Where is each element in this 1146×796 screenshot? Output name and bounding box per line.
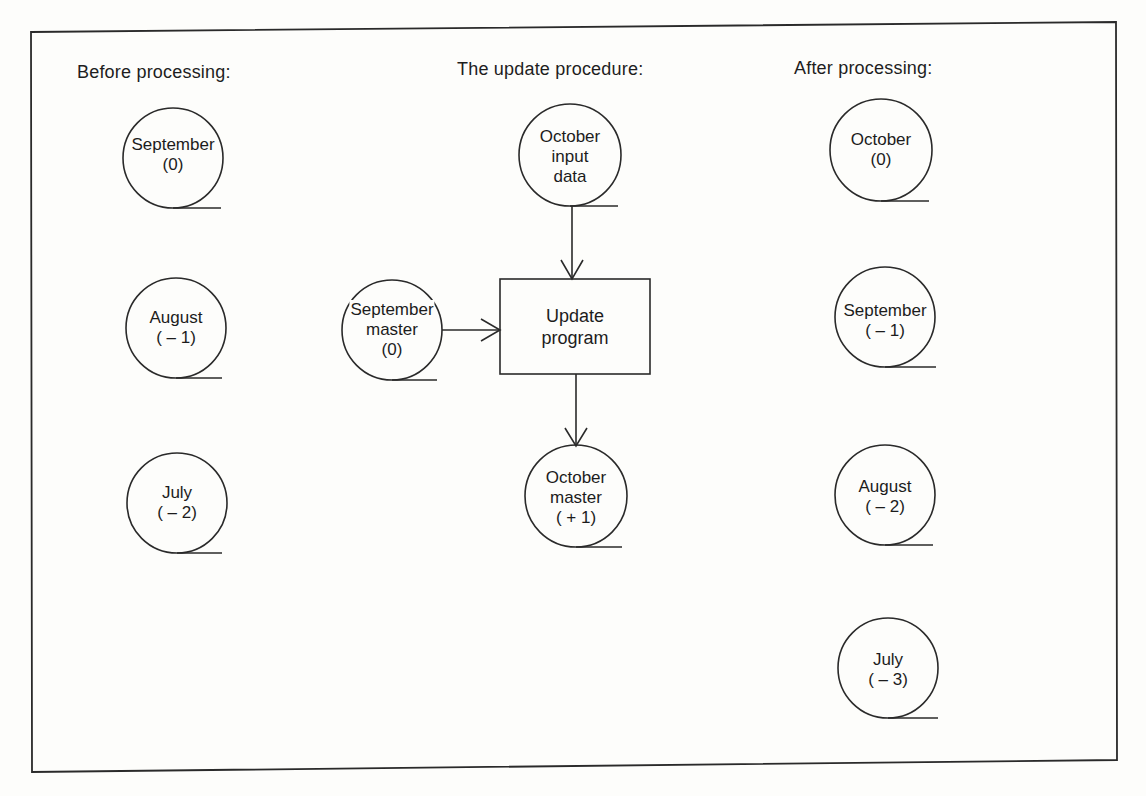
heading-update-procedure: The update procedure: — [457, 59, 643, 80]
diagram-canvas — [0, 0, 1146, 796]
reel-label-line: September — [842, 301, 927, 321]
reel-label-after-3: July ( – 3) — [868, 650, 908, 690]
reel-label-october-master: October master ( + 1) — [546, 468, 606, 528]
reel-label-after-2: August ( – 2) — [859, 477, 912, 517]
heading-before-processing: Before processing: — [77, 62, 231, 83]
reel-label-line: (0) — [130, 155, 215, 175]
arrow-input-to-program — [561, 206, 583, 279]
heading-after-processing: After processing: — [794, 58, 932, 79]
reel-label-september-master: September master (0) — [349, 300, 434, 360]
arrow-master-to-program — [442, 319, 500, 341]
arrow-program-to-output — [565, 374, 587, 446]
reel-label-after-0: October (0) — [851, 130, 911, 170]
reel-label-line: master — [349, 320, 434, 340]
reel-label-line: August — [150, 308, 203, 328]
reel-label-line: ( – 2) — [157, 503, 197, 523]
reel-label-before-1: August ( – 1) — [150, 308, 203, 348]
reel-label-line: ( – 2) — [859, 497, 912, 517]
reel-label-line: ( – 1) — [842, 321, 927, 341]
reel-label-after-1: September ( – 1) — [842, 301, 927, 341]
reel-label-line: master — [546, 488, 606, 508]
reel-label-line: (0) — [851, 150, 911, 170]
reel-label-line: October — [851, 130, 911, 150]
reel-label-before-2: July ( – 2) — [157, 483, 197, 523]
reel-label-line: input — [540, 147, 600, 167]
reel-label-line: October — [546, 468, 606, 488]
box-label-line: Update — [546, 305, 604, 327]
reel-label-line: ( – 1) — [150, 328, 203, 348]
reel-label-october-input: October input data — [540, 127, 600, 187]
update-program-label: Update program — [500, 279, 650, 374]
reel-label-before-0: September (0) — [130, 135, 215, 175]
reel-label-line: ( + 1) — [546, 508, 606, 528]
reel-label-line: August — [859, 477, 912, 497]
reel-label-line: (0) — [349, 340, 434, 360]
reel-label-line: October — [540, 127, 600, 147]
box-label-line: program — [541, 327, 608, 349]
reel-label-line: data — [540, 167, 600, 187]
reel-label-line: ( – 3) — [868, 670, 908, 690]
reel-label-line: July — [868, 650, 908, 670]
reel-label-line: July — [157, 483, 197, 503]
reel-label-line: September — [349, 300, 434, 320]
reel-label-line: September — [130, 135, 215, 155]
